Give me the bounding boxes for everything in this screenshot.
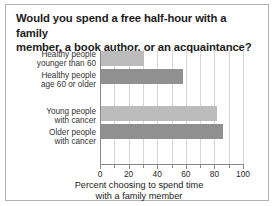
plot-area <box>100 50 243 164</box>
x-tick-minor <box>114 164 115 168</box>
chart-title: Would you spend a free half-hour with a … <box>16 11 260 55</box>
x-tick-minor <box>143 164 144 168</box>
bar-3 <box>100 106 217 121</box>
x-tick-label: 0 <box>98 169 103 179</box>
y-axis-label-older-people-with-cancer: Older people with cancer <box>8 128 96 147</box>
gridline <box>243 50 244 164</box>
x-tick-label: 80 <box>210 169 219 179</box>
bar-series <box>100 50 243 164</box>
x-axis-title-line-2: with a family member <box>18 191 260 202</box>
x-tick-label: 40 <box>153 169 162 179</box>
bar-4 <box>100 124 223 139</box>
bar-2 <box>100 69 183 84</box>
x-tick-label: 60 <box>181 169 190 179</box>
y-axis-line <box>100 50 101 165</box>
x-tick-label: 100 <box>236 169 250 179</box>
y-axis-label-healthy-younger-than-60: Healthy people younger than 60 <box>8 50 96 69</box>
bar-1 <box>100 51 144 66</box>
x-tick-minor <box>200 164 201 168</box>
x-tick-label: 20 <box>124 169 133 179</box>
x-tick-minor <box>172 164 173 168</box>
x-tick-minor <box>229 164 230 168</box>
y-axis-category-labels: Healthy people younger than 60 Healthy p… <box>10 50 98 164</box>
x-axis-title: Percent choosing to spend time with a fa… <box>18 180 260 202</box>
y-axis-label-young-people-with-cancer: Young people with cancer <box>8 107 96 126</box>
chart-title-line-1: Would you spend a free half-hour with a … <box>16 11 260 40</box>
y-axis-label-healthy-60-or-older: Healthy people age 60 or older <box>8 71 96 90</box>
chart-figure: Would you spend a free half-hour with a … <box>0 0 275 206</box>
x-axis-title-line-1: Percent choosing to spend time <box>18 180 260 191</box>
